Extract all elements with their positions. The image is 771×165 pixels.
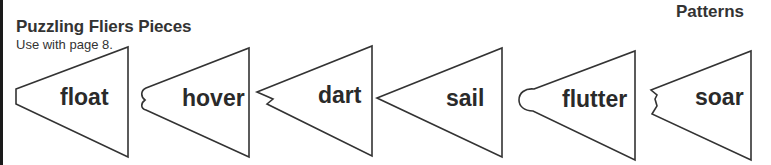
piece-dart[interactable]: dart (257, 46, 372, 156)
piece-hover[interactable]: hover (142, 48, 249, 157)
piece-soar[interactable]: soar (651, 51, 751, 160)
piece-flutter[interactable]: flutter (519, 51, 635, 160)
piece-word: soar (695, 84, 744, 110)
piece-word: sail (446, 85, 484, 111)
piece-word: dart (318, 82, 362, 108)
piece-float[interactable]: float (16, 47, 128, 157)
piece-word: hover (182, 85, 245, 111)
piece-word: flutter (562, 86, 627, 112)
piece-word: float (60, 84, 109, 110)
pieces-strip: float hover dart sail flutter soar (0, 0, 771, 165)
piece-sail[interactable]: sail (377, 48, 502, 157)
